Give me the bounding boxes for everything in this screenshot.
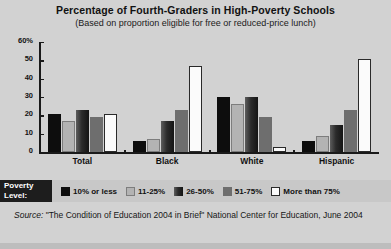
- legend-item-label: 51-75%: [235, 187, 263, 196]
- legend-title: Poverty Level:: [0, 180, 52, 202]
- bars: [294, 42, 379, 152]
- legend-swatch-icon: [174, 187, 183, 196]
- legend-item-label: 26-50%: [186, 187, 214, 196]
- bar-white-4: [273, 147, 286, 153]
- bar-group-white: [210, 42, 295, 152]
- legend-item-3[interactable]: 51-75%: [223, 187, 263, 196]
- legend-title-line1: Poverty: [4, 181, 52, 191]
- y-tick-label: 50: [25, 54, 33, 63]
- bar-white-3: [259, 117, 272, 152]
- legend-swatch-icon: [126, 187, 135, 196]
- bar-total-0: [48, 114, 61, 153]
- bar-total-1: [62, 121, 75, 152]
- bars: [40, 42, 125, 152]
- x-label-hispanic: Hispanic: [294, 156, 379, 166]
- legend-item-2[interactable]: 26-50%: [174, 187, 214, 196]
- y-tick-label: 0: [29, 146, 33, 155]
- legend-title-line2: Level:: [4, 191, 52, 201]
- legend-items: 10% or less11-25%26-50%51-75%More than 7…: [52, 187, 391, 196]
- bar-group-hispanic: [294, 42, 379, 152]
- bar-white-2: [245, 97, 258, 152]
- bar-group-total: [40, 42, 125, 152]
- x-label-white: White: [210, 156, 295, 166]
- y-tick-mark: [39, 152, 44, 153]
- legend-item-4[interactable]: More than 75%: [271, 187, 339, 196]
- chart-header: Percentage of Fourth-Graders in High-Pov…: [0, 0, 391, 29]
- legend-item-1[interactable]: 11-25%: [126, 187, 165, 196]
- y-tick-label: 60%: [18, 36, 33, 45]
- legend-swatch-icon: [271, 187, 280, 196]
- bar-black-4: [189, 66, 202, 152]
- bar-hispanic-2: [330, 125, 343, 153]
- bar-hispanic-1: [316, 136, 329, 153]
- legend-swatch-icon: [223, 187, 232, 196]
- y-tick-label: 40: [25, 73, 33, 82]
- plot-area: 60%50403020100 TotalBlackWhiteHispanic: [0, 36, 391, 178]
- chart-card: Percentage of Fourth-Graders in High-Pov…: [0, 0, 391, 249]
- y-tick-label: 20: [25, 109, 33, 118]
- x-axis-labels: TotalBlackWhiteHispanic: [40, 156, 379, 166]
- x-label-black: Black: [125, 156, 210, 166]
- legend-swatch-icon: [61, 187, 70, 196]
- bar-white-1: [231, 104, 244, 152]
- bar-total-2: [76, 110, 89, 152]
- source-text: "The Condition of Education 2004 in Brie…: [43, 210, 362, 220]
- legend-item-0[interactable]: 10% or less: [61, 187, 117, 196]
- source-label: Source:: [14, 210, 43, 220]
- legend: Poverty Level: 10% or less11-25%26-50%51…: [0, 180, 391, 202]
- bar-black-3: [175, 110, 188, 152]
- bar-black-0: [133, 141, 146, 152]
- legend-item-label: 11-25%: [138, 187, 165, 196]
- bar-group-black: [125, 42, 210, 152]
- source-note: Source: "The Condition of Education 2004…: [0, 205, 391, 243]
- chart-subtitle: (Based on proportion eligible for free o…: [0, 17, 391, 29]
- bottom-rule: [0, 243, 391, 249]
- bar-hispanic-4: [358, 59, 371, 153]
- bars: [125, 42, 210, 152]
- x-label-total: Total: [40, 156, 125, 166]
- bar-black-2: [161, 121, 174, 152]
- legend-item-label: More than 75%: [283, 187, 339, 196]
- page-title: Percentage of Fourth-Graders in High-Pov…: [0, 4, 391, 16]
- bar-black-1: [147, 139, 160, 152]
- bar-total-3: [90, 117, 103, 152]
- bars: [210, 42, 295, 152]
- bar-total-4: [104, 114, 117, 153]
- y-tick-label: 30: [25, 91, 33, 100]
- bar-hispanic-3: [344, 110, 357, 152]
- y-tick-label: 10: [25, 128, 33, 137]
- bar-hispanic-0: [302, 141, 315, 152]
- bar-groups: [40, 42, 379, 152]
- legend-item-label: 10% or less: [73, 187, 117, 196]
- bar-white-0: [217, 97, 230, 152]
